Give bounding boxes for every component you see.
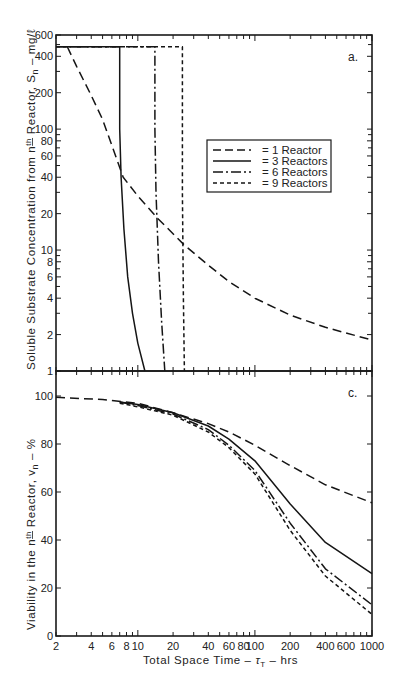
y-tick-label: 20 xyxy=(41,582,53,594)
x-tick-label: 6 xyxy=(109,640,115,652)
legend: = 1 Reactor= 3 Reactors= 6 Reactors= 9 R… xyxy=(207,140,331,192)
substrate-panel: 124681020406080100200400600 xyxy=(35,29,372,377)
y-tick-label: 400 xyxy=(35,50,53,62)
x-tick-label: 1000 xyxy=(360,640,384,652)
x-tick-label: 8 xyxy=(123,640,129,652)
viability-substrate-chart: 124681020406080100200400600 020406080100… xyxy=(0,0,399,695)
y-tick-label: 2 xyxy=(47,329,53,341)
y-tick-label: 40 xyxy=(41,171,53,183)
legend-label: = 9 Reactors xyxy=(262,177,328,189)
x-tick-label: 60 xyxy=(223,640,235,652)
y-tick-label: 40 xyxy=(41,534,53,546)
series-line-3-reactors xyxy=(56,47,145,371)
y-tick-label: 100 xyxy=(35,123,53,135)
panel-label-c: c. xyxy=(348,386,357,400)
x-tick-label: 20 xyxy=(167,640,179,652)
y-tick-label: 10 xyxy=(41,244,53,256)
plot-frame xyxy=(56,35,372,371)
y-tick-label: 8 xyxy=(47,256,53,268)
series-line-1-reactor xyxy=(56,397,372,503)
y-tick-label: 80 xyxy=(41,135,53,147)
y-tick-label: 60 xyxy=(41,150,53,162)
x-tick-label: 600 xyxy=(337,640,355,652)
x-tick-label: 2 xyxy=(53,640,59,652)
y-tick-label: 6 xyxy=(47,271,53,283)
y-axis-title-top: Soluble Substrate Concentration from nth… xyxy=(24,29,40,370)
series-line-1-reactor xyxy=(67,47,372,340)
y-tick-label: 100 xyxy=(35,390,53,402)
x-axis-title: Total Space Time – τT – hrs xyxy=(143,654,298,669)
y-tick-label: 20 xyxy=(41,208,53,220)
x-tick-label: 4 xyxy=(88,640,94,652)
y-tick-label: 4 xyxy=(47,292,53,304)
y-tick-label: 80 xyxy=(41,438,53,450)
y-tick-label: 600 xyxy=(35,29,53,41)
plot-frame xyxy=(56,371,372,636)
series-line-9-reactors xyxy=(120,403,372,614)
y-tick-label: 200 xyxy=(35,87,53,99)
panel-label-a: a. xyxy=(348,50,358,64)
y-tick-label: 60 xyxy=(41,486,53,498)
viability-panel: 0204060801002468102040608010020040060010… xyxy=(35,371,385,652)
x-tick-label: 10 xyxy=(132,640,144,652)
x-tick-label: 40 xyxy=(202,640,214,652)
y-tick-label: 1 xyxy=(47,365,53,377)
series-line-6-reactors xyxy=(120,402,372,605)
y-axis-title-bottom: Viability in the nth Reactor, vn – % xyxy=(24,438,40,630)
x-tick-label: 400 xyxy=(316,640,334,652)
x-tick-label: 100 xyxy=(246,640,264,652)
x-tick-label: 200 xyxy=(281,640,299,652)
